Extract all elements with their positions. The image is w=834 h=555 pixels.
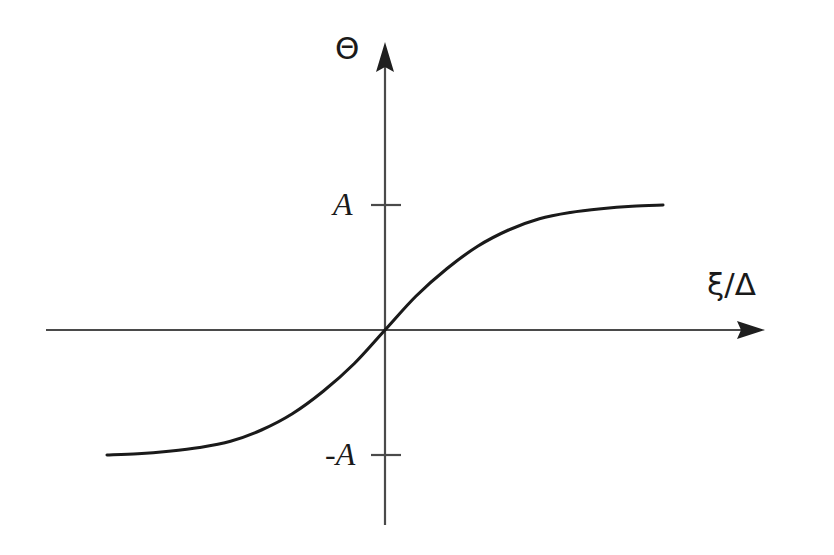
y-tick-label-positive: A: [333, 188, 353, 220]
x-axis-arrowhead: [737, 321, 765, 339]
y-axis-label: Θ: [335, 33, 359, 64]
x-axis-label: ξ/Δ: [707, 269, 756, 300]
chart-figure: Θ ξ/Δ A -A: [0, 0, 834, 555]
y-tick-label-negative: -A: [325, 438, 355, 470]
